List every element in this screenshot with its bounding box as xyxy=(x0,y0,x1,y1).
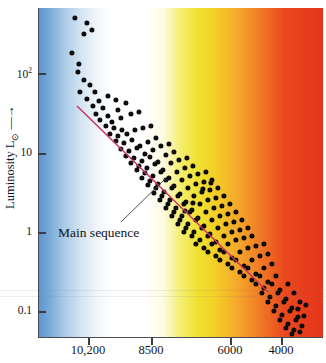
y-axis-tick xyxy=(38,311,46,313)
y-axis-tick xyxy=(38,153,46,155)
y-axis-title: Luminosity L⊙—→ xyxy=(4,58,20,258)
y-axis-tick xyxy=(38,232,46,234)
x-axis-tick-label: 6000 xyxy=(218,344,243,357)
y-axis-tick xyxy=(38,73,46,75)
x-axis-tick-label: 8500 xyxy=(139,344,164,357)
y-axis-title-text: Luminosity L xyxy=(3,141,17,209)
x-axis-tick-label: 4000 xyxy=(269,344,294,357)
main-sequence-annotation: Main sequence xyxy=(58,226,139,240)
solar-symbol: ⊙ xyxy=(10,133,20,141)
y-axis-tick-label: 0.1 xyxy=(0,305,32,317)
x-axis-tick-label: 10,200 xyxy=(71,344,105,357)
y-axis-arrow: —→ xyxy=(3,107,17,133)
hr-diagram-figure: Main sequence 1021010.1 Luminosity L⊙—→ … xyxy=(0,0,326,363)
plot-area xyxy=(38,8,323,338)
